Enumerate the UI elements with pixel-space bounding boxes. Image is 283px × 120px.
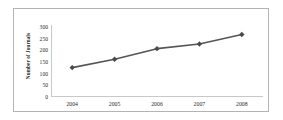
plot-area: [51, 25, 263, 96]
chart-figure: Number of Journals 050100150200250300 20…: [0, 0, 283, 120]
data-point-marker: [197, 41, 202, 46]
x-tick-label: 2005: [95, 101, 135, 107]
y-tick-label: 50: [28, 82, 48, 88]
line-series: [51, 25, 263, 96]
x-tick-label: 2004: [52, 101, 92, 107]
data-point-marker: [112, 57, 117, 62]
y-tick-label: 200: [28, 47, 48, 53]
y-tick-label: 300: [28, 24, 48, 30]
data-point-marker: [239, 32, 244, 37]
y-tick-label: 150: [28, 59, 48, 65]
data-point-marker: [154, 46, 159, 51]
x-tick-label: 2007: [179, 101, 219, 107]
data-point-marker: [70, 65, 75, 70]
x-tick-label: 2008: [222, 101, 262, 107]
y-tick-label: 100: [28, 71, 48, 77]
x-axis-tick-labels: 20042005200620072008: [51, 101, 263, 111]
x-tick-label: 2006: [137, 101, 177, 107]
y-axis-tick-labels: 050100150200250300: [28, 26, 48, 96]
y-tick-label: 250: [28, 36, 48, 42]
x-axis-line: [51, 96, 263, 97]
chart-frame: Number of Journals 050100150200250300 20…: [13, 8, 269, 112]
plot-wrapper: Number of Journals 050100150200250300 20…: [14, 9, 268, 111]
y-tick-label: 0: [28, 94, 48, 100]
